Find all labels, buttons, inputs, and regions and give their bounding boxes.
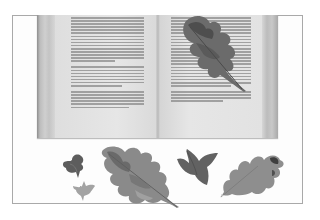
book-page-edges-right bbox=[262, 15, 278, 138]
text-block-left bbox=[71, 17, 144, 110]
book-gutter bbox=[156, 15, 160, 138]
book-page-edges-left bbox=[37, 15, 55, 138]
small-ivy-leaf-dark bbox=[62, 152, 88, 179]
oak-leaf-right bbox=[218, 150, 286, 200]
small-ivy-leaf-light bbox=[72, 180, 96, 202]
large-oak-leaf bbox=[99, 144, 181, 208]
ivy-leaf bbox=[175, 147, 219, 187]
oak-leaf-on-page bbox=[176, 13, 252, 93]
book-page-left bbox=[55, 15, 158, 138]
